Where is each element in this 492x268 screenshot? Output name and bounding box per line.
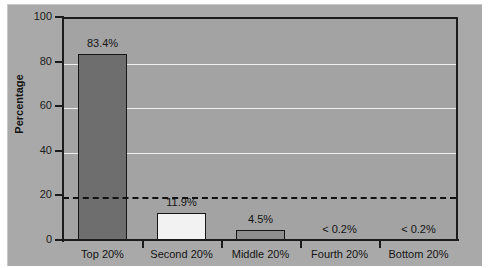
y-axis-tick-label-wrap: 40 [8, 145, 52, 157]
y-axis-tick [55, 16, 63, 18]
x-axis-line [62, 239, 459, 241]
y-axis-tick [55, 150, 63, 152]
bar-value-label: 4.5% [221, 214, 300, 225]
x-axis-tick [300, 241, 302, 248]
bar-chart-figure: Percentage 020406080100 83.4%11.9%4.5%< … [0, 0, 492, 268]
bar [157, 213, 206, 240]
plot-area [63, 17, 458, 240]
x-axis-category-label: Second 20% [142, 249, 221, 260]
y-axis-tick-label: 80 [12, 56, 52, 67]
plot-inner [63, 19, 456, 240]
y-axis-tick-label: 20 [12, 189, 52, 200]
bar-value-label: 83.4% [63, 38, 142, 49]
bar-value-label: 11.9% [142, 197, 221, 208]
y-axis-tick-label: 60 [12, 100, 52, 111]
x-axis-tick [221, 241, 223, 248]
y-axis-tick-label: 0 [12, 234, 52, 245]
x-axis-tick [379, 241, 381, 248]
y-axis-tick-label-wrap: 80 [8, 56, 52, 68]
y-axis-tick [55, 194, 63, 196]
bar [78, 54, 127, 240]
y-axis-tick-label-wrap: 20 [8, 189, 52, 201]
bar-value-label: < 0.2% [300, 224, 379, 235]
x-axis-category-label: Fourth 20% [300, 249, 379, 260]
x-axis-category-label: Top 20% [63, 249, 142, 260]
x-axis-category-label: Middle 20% [221, 249, 300, 260]
y-axis-tick-label-wrap: 0 [8, 234, 52, 246]
y-axis-tick-label: 40 [12, 145, 52, 156]
y-axis-tick-label-wrap: 60 [8, 100, 52, 112]
y-axis-tick [55, 61, 63, 63]
bar-value-label: < 0.2% [379, 224, 458, 235]
y-axis-tick-label: 100 [12, 11, 52, 22]
x-axis-category-label: Bottom 20% [379, 249, 458, 260]
y-axis-tick [55, 239, 63, 241]
y-axis-line [62, 16, 64, 242]
x-axis-tick [142, 241, 144, 248]
reference-line [63, 197, 456, 199]
y-axis-tick-label-wrap: 100 [8, 11, 52, 23]
y-axis-tick [55, 105, 63, 107]
